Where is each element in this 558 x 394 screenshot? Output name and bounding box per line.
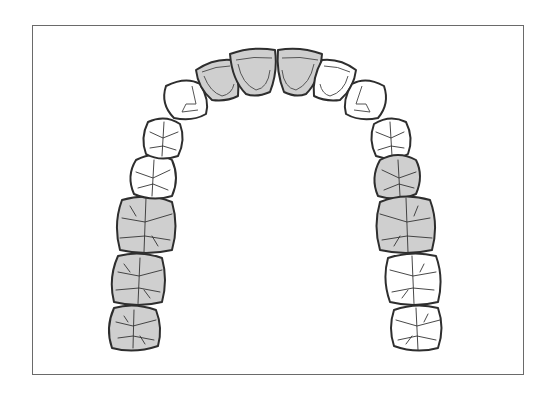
tooth-right-third-molar[interactable] [391,305,442,350]
tooth-left-first-premolar[interactable] [143,118,182,158]
tooth-right-first-molar[interactable] [377,196,436,253]
tooth-left-first-molar[interactable] [117,196,176,253]
tooth-left-second-molar[interactable] [112,253,165,305]
tooth-right-canine[interactable] [345,80,386,119]
tooth-right-second-molar[interactable] [385,253,440,305]
tooth-right-first-premolar[interactable] [371,118,410,158]
dental-arch-diagram [0,0,558,394]
tooth-left-second-premolar[interactable] [130,155,176,199]
tooth-left-third-molar[interactable] [109,305,160,350]
tooth-right-second-premolar[interactable] [374,155,420,199]
